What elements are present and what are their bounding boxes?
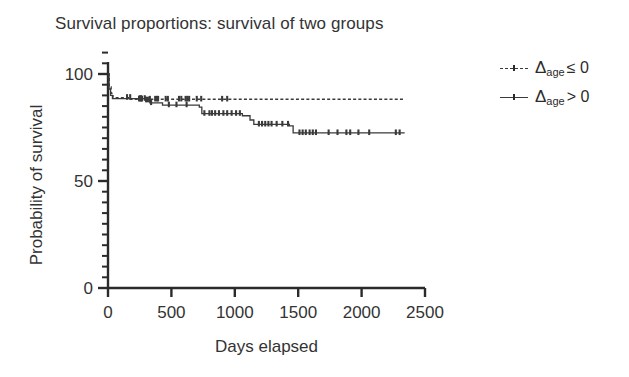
- legend-swatch-dashed-icon: [500, 62, 528, 74]
- y-tick-label-50: 50: [74, 172, 93, 191]
- legend-item-0[interactable]: Δage≤ 0: [500, 58, 589, 78]
- axis-labels-group: 05001000150020002500050100Days elapsedPr…: [27, 65, 444, 356]
- x-tick-label-2500: 2500: [406, 303, 444, 322]
- legend-subscript-0: age: [546, 66, 564, 78]
- survival-plot: 05001000150020002500050100Days elapsedPr…: [0, 0, 629, 377]
- legend-operator-0: ≤ 0: [567, 59, 589, 77]
- legend: Δage≤ 0 Δage> 0: [500, 58, 589, 107]
- series-line-delta_age_le_0: [108, 74, 405, 99]
- x-tick-label-1000: 1000: [216, 303, 254, 322]
- legend-swatch-solid-icon: [500, 91, 528, 103]
- legend-operator-1: > 0: [567, 88, 590, 106]
- x-tick-label-2000: 2000: [343, 303, 381, 322]
- legend-item-1[interactable]: Δage> 0: [500, 87, 589, 107]
- x-axis-title: Days elapsed: [215, 337, 318, 356]
- axes-group: [98, 53, 425, 297]
- legend-label-1: Δage> 0: [535, 87, 589, 107]
- legend-delta-symbol-0: Δ: [535, 58, 546, 78]
- x-tick-label-500: 500: [157, 303, 185, 322]
- series-group: [108, 74, 405, 135]
- series-line-delta_age_gt_0: [108, 74, 405, 133]
- chart-page: Survival proportions: survival of two gr…: [0, 0, 629, 377]
- x-tick-label-1500: 1500: [279, 303, 317, 322]
- y-tick-label-100: 100: [65, 65, 93, 84]
- legend-subscript-1: age: [546, 95, 564, 107]
- legend-delta-symbol-1: Δ: [535, 87, 546, 107]
- legend-label-0: Δage≤ 0: [535, 58, 589, 78]
- y-tick-label-0: 0: [84, 279, 93, 298]
- x-tick-label-0: 0: [103, 303, 112, 322]
- y-axis-title: Probability of survival: [27, 105, 46, 266]
